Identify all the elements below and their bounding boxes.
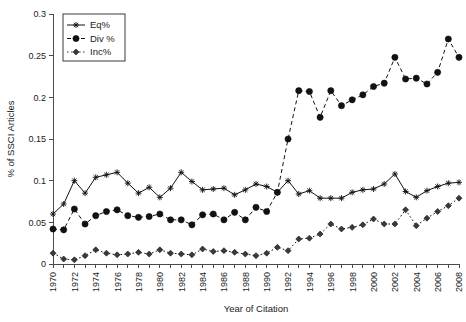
data-point-marker <box>424 81 430 87</box>
data-point-marker <box>146 213 152 219</box>
data-point-marker <box>93 213 99 219</box>
y-tick-label: 0.1 <box>33 176 46 186</box>
data-point-marker <box>253 181 259 187</box>
x-tick-label: 2006 <box>433 272 443 292</box>
y-tick-label: 0.15 <box>28 134 46 144</box>
data-point-marker <box>413 194 419 200</box>
data-point-marker <box>445 36 451 42</box>
x-tick-label: 1992 <box>283 272 293 292</box>
data-point-marker <box>296 191 302 197</box>
data-point-marker <box>103 208 109 214</box>
data-point-marker <box>306 88 312 94</box>
data-point-marker <box>371 186 377 192</box>
data-point-marker <box>274 244 280 250</box>
data-point-marker <box>168 250 174 256</box>
x-tick-label: 1976 <box>113 272 123 292</box>
data-point-marker <box>210 249 216 255</box>
x-tick-label: 1984 <box>198 272 208 292</box>
x-tick-label: 1998 <box>348 272 358 292</box>
data-point-marker <box>146 184 152 190</box>
data-point-marker <box>210 211 216 217</box>
data-point-marker <box>71 178 77 184</box>
data-point-marker <box>93 247 99 253</box>
data-point-marker <box>403 189 409 195</box>
data-point-marker <box>328 88 334 94</box>
data-point-marker <box>338 103 344 109</box>
data-point-marker <box>402 76 408 82</box>
y-tick-label: 0.3 <box>33 9 46 19</box>
data-point-marker <box>232 209 238 215</box>
data-point-marker <box>200 187 206 193</box>
data-point-marker <box>349 97 355 103</box>
data-point-marker <box>445 203 451 209</box>
data-point-marker <box>370 83 376 89</box>
data-point-marker <box>317 195 323 201</box>
x-axis-title: Year of Citation <box>224 303 289 314</box>
data-point-marker <box>424 215 430 221</box>
data-point-marker <box>221 185 227 191</box>
y-tick-label: 0 <box>41 259 46 269</box>
data-point-marker <box>392 54 398 60</box>
data-point-marker <box>93 174 99 180</box>
x-tick-label: 1978 <box>134 272 144 292</box>
y-axis-title: % of SSCI Articles <box>5 100 16 177</box>
x-tick-label: 1986 <box>219 272 229 292</box>
data-point-marker <box>360 92 366 98</box>
data-point-marker <box>306 188 312 194</box>
data-point-marker <box>264 208 270 214</box>
x-tick-label: 2000 <box>369 272 379 292</box>
data-point-marker <box>296 236 302 242</box>
chart-legend: Eq%Div %Inc% <box>63 14 125 61</box>
data-point-marker <box>114 207 120 213</box>
data-point-marker <box>317 231 323 237</box>
data-point-marker <box>61 201 67 207</box>
data-point-marker <box>125 251 131 257</box>
data-point-marker <box>178 251 184 257</box>
data-point-marker <box>157 194 163 200</box>
series-div- <box>50 36 462 233</box>
data-point-marker <box>200 246 206 252</box>
data-point-marker <box>338 195 344 201</box>
data-point-marker <box>274 189 280 195</box>
data-point-marker <box>435 209 441 215</box>
data-point-marker <box>242 217 248 223</box>
data-point-marker <box>82 253 88 259</box>
data-point-marker <box>82 190 88 196</box>
data-point-marker <box>50 211 56 217</box>
data-point-marker <box>349 189 355 195</box>
x-tick-label: 2002 <box>390 272 400 292</box>
data-point-marker <box>199 212 205 218</box>
x-tick-label: 2004 <box>412 272 422 292</box>
data-point-marker <box>232 192 238 198</box>
data-point-marker <box>328 195 334 201</box>
data-point-marker <box>50 250 56 256</box>
data-point-marker <box>285 178 291 184</box>
data-point-marker <box>221 217 227 223</box>
data-point-marker <box>360 187 366 193</box>
data-point-marker <box>61 227 67 233</box>
line-chart: 00.050.10.150.20.250.3197019721974197619… <box>0 0 466 322</box>
data-point-marker <box>317 114 323 120</box>
data-point-marker <box>135 190 141 196</box>
y-tick-label: 0.2 <box>33 93 46 103</box>
legend-label: Eq% <box>90 19 111 30</box>
data-point-marker <box>189 179 195 185</box>
data-point-marker <box>103 250 109 256</box>
data-point-marker <box>456 54 462 60</box>
data-point-marker <box>392 171 398 177</box>
chart-container: 00.050.10.150.20.250.3197019721974197619… <box>0 0 466 322</box>
data-point-marker <box>285 136 291 142</box>
data-point-marker <box>381 221 387 227</box>
data-point-marker <box>338 226 344 232</box>
x-tick-label: 1996 <box>326 272 336 292</box>
x-tick-label: 1980 <box>155 272 165 292</box>
data-point-marker <box>135 214 141 220</box>
x-tick-label: 1982 <box>177 272 187 292</box>
data-point-marker <box>413 223 419 229</box>
data-point-marker <box>456 179 462 185</box>
data-point-marker <box>413 75 419 81</box>
data-point-marker <box>71 206 77 212</box>
data-point-marker <box>264 250 270 256</box>
data-point-marker <box>306 235 312 241</box>
data-point-marker <box>210 186 216 192</box>
